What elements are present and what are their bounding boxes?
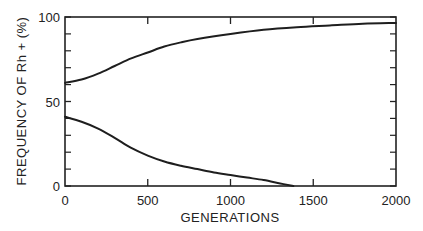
y-tick-label: 50 (46, 95, 60, 110)
y-tick-label: 100 (38, 10, 60, 25)
data-series (65, 23, 396, 186)
plot-frame (65, 17, 396, 186)
y-tick-label: 0 (53, 179, 60, 194)
y-axis-ticks: 050100 (38, 10, 396, 194)
x-axis-ticks: 0500100015002000 (61, 17, 410, 208)
x-axis-title: GENERATIONS (180, 210, 279, 225)
x-tick-label: 2000 (382, 193, 411, 208)
series-line (65, 117, 293, 186)
x-tick-label: 1000 (216, 193, 245, 208)
chart: 050100 0500100015002000 GENERATIONS FREQ… (0, 0, 423, 231)
x-tick-label: 1500 (299, 193, 328, 208)
x-tick-label: 0 (61, 193, 68, 208)
plot-border (65, 17, 396, 186)
series-line (65, 23, 396, 83)
y-axis-title: FREQUENCY OF Rh + (%) (14, 17, 29, 186)
x-tick-label: 500 (137, 193, 159, 208)
